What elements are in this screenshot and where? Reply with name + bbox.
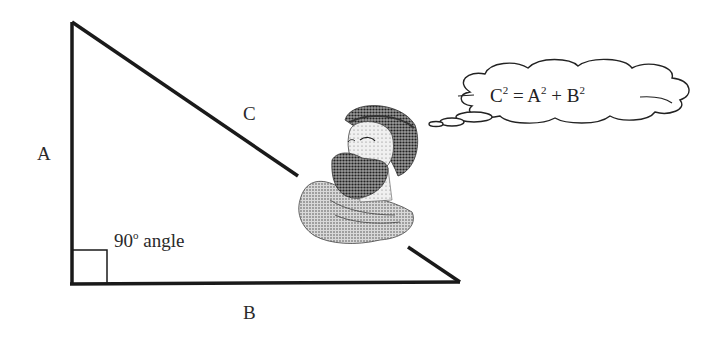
- eq-a: A: [527, 85, 541, 106]
- triangle-diagram: [0, 0, 723, 337]
- side-b-text: B: [243, 302, 256, 323]
- eq-a-exp: 2: [541, 84, 547, 96]
- right-angle-marker: [72, 250, 107, 284]
- pythagoras-bust-icon: [299, 106, 418, 244]
- thought-bubble-dot-medium: [440, 118, 464, 126]
- side-c-line-lower: [408, 247, 460, 282]
- angle-value: 90: [114, 230, 133, 251]
- side-c-label: C: [243, 104, 256, 123]
- eq-c-exp: 2: [503, 84, 509, 96]
- side-a-label: A: [37, 144, 51, 163]
- angle-word: angle: [143, 230, 184, 251]
- pythagorean-equation: C2 = A2 + B2: [490, 84, 585, 107]
- eq-equals: =: [513, 85, 524, 106]
- eq-plus: +: [551, 85, 562, 106]
- eq-b-exp: 2: [580, 84, 586, 96]
- side-c-text: C: [243, 103, 256, 124]
- eq-c: C: [490, 85, 503, 106]
- side-b-line: [70, 282, 460, 284]
- thought-bubble-dot-small: [429, 122, 443, 127]
- angle-label: 90o angle: [114, 230, 184, 250]
- degree-symbol: o: [133, 229, 139, 241]
- side-a-text: A: [37, 143, 51, 164]
- side-b-label: B: [243, 303, 256, 322]
- eq-b: B: [567, 85, 580, 106]
- side-c-line-upper: [72, 22, 298, 176]
